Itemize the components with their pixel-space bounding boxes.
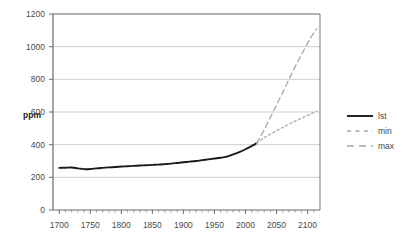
y-tick-label: 400 <box>31 140 45 150</box>
y-axis-title: ppm <box>23 110 41 120</box>
y-tick-label: 200 <box>31 172 45 182</box>
x-tick-label: 1800 <box>112 220 131 230</box>
legend-label-min: min <box>378 126 392 136</box>
x-tick-label: 2050 <box>267 220 286 230</box>
legend-label-max: max <box>378 141 395 151</box>
x-tick-label: 1850 <box>143 220 162 230</box>
x-tick-label: 1900 <box>174 220 193 230</box>
chart-legend: lstminmax <box>347 111 395 151</box>
x-tick-label: 1950 <box>205 220 224 230</box>
y-tick-label: 800 <box>31 74 45 84</box>
y-tick-label: 0 <box>40 205 45 215</box>
line-chart: 020040060080010001200 170017501800185019… <box>0 0 403 249</box>
legend-label-lst: lst <box>378 111 387 121</box>
x-tick-label: 2000 <box>236 220 255 230</box>
y-tick-label: 1000 <box>26 42 45 52</box>
x-axis-labels: 170017501800185019001950200020502100 <box>50 220 318 230</box>
chart-container: 020040060080010001200 170017501800185019… <box>0 0 403 249</box>
x-tick-label: 2100 <box>298 220 317 230</box>
x-tick-label: 1750 <box>81 220 100 230</box>
y-tick-label: 1200 <box>26 9 45 19</box>
x-tick-label: 1700 <box>50 220 69 230</box>
